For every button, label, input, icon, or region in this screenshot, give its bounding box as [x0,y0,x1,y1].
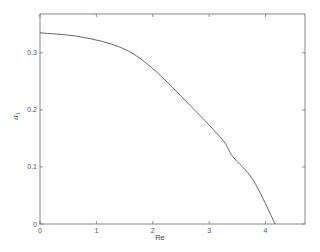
plot-frame [40,14,305,224]
line-chart: 01234 00.10.20.3 Re a1 [0,0,320,252]
x-tick-label: 0 [38,227,42,234]
y-axis: 00.10.20.3 [27,49,305,227]
y-tick-label: 0.3 [27,49,37,56]
y-tick-label: 0.2 [27,106,37,113]
x-tick-label: 2 [151,227,155,234]
x-tick-label: 4 [264,227,268,234]
y-tick-label: 0 [33,221,37,228]
x-axis: 01234 [38,14,268,234]
x-tick-label: 3 [207,227,211,234]
y-axis-label: a1 [10,112,21,120]
data-series-a1 [40,33,275,224]
x-axis-label: Re [155,233,165,242]
x-tick-label: 1 [94,227,98,234]
y-tick-label: 0.1 [27,163,37,170]
